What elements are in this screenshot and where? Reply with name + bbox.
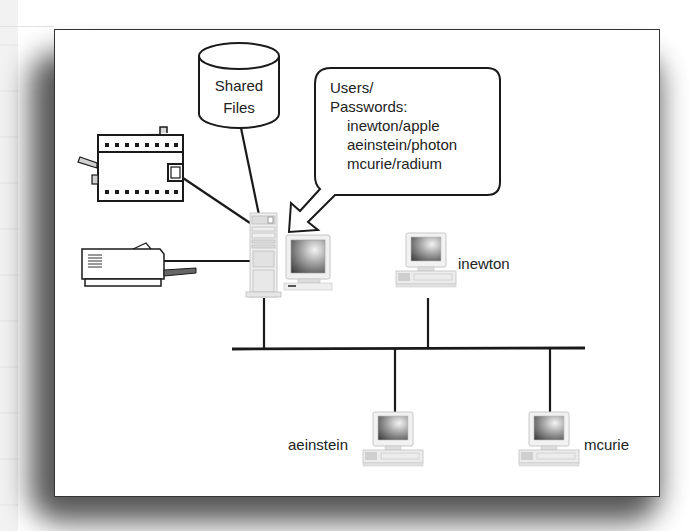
client-label-mcurie: mcurie (584, 437, 629, 453)
server-tower-icon (246, 213, 281, 297)
network-bus (232, 348, 585, 349)
workstation-icon-inewton (396, 233, 456, 287)
fax-machine-icon (78, 127, 183, 201)
storage-link (241, 128, 259, 215)
monitor-icon (284, 235, 332, 290)
workstation-icon-aeinstein (363, 412, 423, 466)
shared-files-label-line2: Files (199, 97, 279, 119)
shared-files-label: Shared Files (199, 75, 279, 119)
credential-inewton: inewton/apple (330, 116, 457, 135)
printer-icon (82, 243, 196, 286)
credential-aeinstein: aeinstein/photon (330, 135, 457, 154)
callout-title-line2: Passwords: (330, 97, 457, 116)
credential-mcurie: mcurie/radium (330, 154, 457, 173)
client-label-inewton: inewton (458, 256, 510, 272)
credentials-callout-text: Users/ Passwords: inewton/apple aeinstei… (330, 78, 457, 173)
workstation-icon-mcurie (519, 412, 579, 466)
shared-files-label-line1: Shared (199, 75, 279, 97)
client-label-aeinstein: aeinstein (288, 437, 348, 453)
callout-title-line1: Users/ (330, 78, 457, 97)
fax-link (183, 178, 250, 223)
